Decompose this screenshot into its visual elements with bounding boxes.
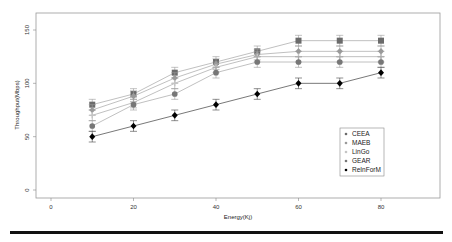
y-tick-label: 50 (24, 133, 30, 140)
data-point (131, 102, 137, 108)
x-axis: 020406080 (49, 198, 385, 210)
x-tick-label: 20 (130, 204, 137, 210)
legend-label: GEAR (352, 157, 371, 164)
legend-label: ReInForM (352, 166, 381, 173)
data-point (172, 91, 178, 97)
x-tick-label: 0 (49, 204, 53, 210)
x-axis-title: Energy(Kj) (224, 214, 252, 220)
data-point (89, 123, 95, 129)
y-axis: 050100150 (24, 24, 36, 191)
y-tick-label: 0 (24, 188, 30, 192)
y-tick-label: 150 (24, 24, 30, 35)
data-point (378, 59, 384, 65)
data-point (378, 38, 384, 44)
data-point (213, 70, 219, 76)
legend-label: LinGo (352, 148, 370, 155)
legend-label: CEEA (352, 130, 370, 137)
y-tick-label: 100 (24, 78, 30, 89)
legend-marker-icon (345, 151, 348, 154)
line-chart: 050100150 020406080 Energy(Kj) Throughpu… (0, 0, 452, 242)
data-point (254, 59, 260, 65)
legend: CEEAMAEBLinGoGEARReInForM (340, 128, 384, 176)
legend-marker-icon (345, 142, 348, 145)
legend-marker-icon (345, 160, 348, 163)
data-point (296, 59, 302, 65)
x-tick-label: 40 (213, 204, 220, 210)
data-point (296, 38, 302, 44)
x-tick-label: 80 (378, 204, 385, 210)
y-axis-title: Throughput(Mbps) (14, 80, 20, 129)
legend-marker-icon (345, 133, 348, 136)
data-point (337, 38, 343, 44)
legend-marker-icon (345, 169, 348, 172)
legend-label: MAEB (352, 139, 370, 146)
bottom-divider (10, 231, 443, 234)
x-tick-label: 60 (295, 204, 302, 210)
data-point (337, 59, 343, 65)
